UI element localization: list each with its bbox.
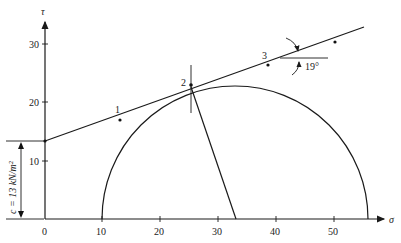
point-label-3: 3 bbox=[262, 50, 267, 61]
tick-x-0: 0 bbox=[42, 226, 47, 237]
tick-x-20: 20 bbox=[154, 226, 164, 237]
point-label-2: 2 bbox=[181, 77, 186, 88]
failure-envelope bbox=[45, 27, 364, 141]
tick-x-10: 10 bbox=[96, 226, 106, 237]
y-axis-label: τ bbox=[41, 6, 45, 17]
angle-arc-upper bbox=[286, 38, 298, 51]
tick-y-30: 30 bbox=[29, 39, 39, 50]
dimension-arrow-up-icon bbox=[18, 142, 24, 149]
tick-x-30: 30 bbox=[212, 226, 222, 237]
tick-x-50: 50 bbox=[328, 226, 338, 237]
x-axis-label: σ bbox=[389, 214, 395, 225]
data-point-1 bbox=[118, 118, 121, 121]
data-point-3 bbox=[266, 63, 269, 66]
cohesion-label: c = 13 kN/m² bbox=[7, 160, 18, 214]
angle-label: 19° bbox=[305, 61, 319, 72]
point-label-1: 1 bbox=[115, 104, 120, 115]
data-point-4 bbox=[333, 40, 336, 43]
tick-x-40: 40 bbox=[270, 226, 280, 237]
data-point-2 bbox=[189, 83, 193, 87]
radius-line bbox=[191, 87, 236, 219]
dimension-arrow-down-icon bbox=[18, 211, 24, 218]
mohr-diagram: 0 10 20 30 40 50 10 20 30 σ τ 1 2 3 19° … bbox=[0, 0, 401, 243]
tick-y-10: 10 bbox=[29, 156, 39, 167]
tick-y-20: 20 bbox=[29, 97, 39, 108]
angle-arc-lower bbox=[292, 62, 299, 75]
